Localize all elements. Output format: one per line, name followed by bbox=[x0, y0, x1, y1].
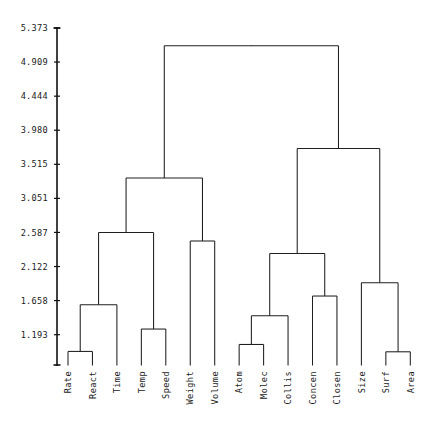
dendrogram-canvas: 1.1931.6582.1222.5873.0513.5153.9804.444… bbox=[0, 0, 431, 436]
leaf-label-concen: Concen bbox=[308, 371, 318, 404]
leaf-label-volume: Volume bbox=[210, 371, 220, 404]
y-axis-tick-label: 3.515 bbox=[21, 159, 48, 169]
dendrogram-links bbox=[68, 45, 410, 351]
leaf-label-molec: Molec bbox=[259, 371, 269, 399]
leaf-label-time: Time bbox=[112, 371, 122, 393]
leaf-label-closen: Closen bbox=[332, 371, 342, 404]
leaf-label-surf: Surf bbox=[381, 371, 391, 393]
y-axis: 1.1931.6582.1222.5873.0513.5153.9804.444… bbox=[21, 23, 61, 366]
y-axis-tick-label: 1.193 bbox=[21, 330, 48, 340]
y-axis-tick-label: 4.909 bbox=[21, 57, 48, 67]
y-axis-tick-label: 1.658 bbox=[21, 296, 48, 306]
y-axis-tick-label: 2.122 bbox=[21, 262, 48, 272]
dendrogram-leaf-stems bbox=[68, 241, 410, 365]
leaf-label-rate: Rate bbox=[63, 371, 73, 393]
y-axis-tick-label: 2.587 bbox=[21, 228, 48, 238]
leaf-labels: RateReactTimeTempSpeedWeightVolumeAtomMo… bbox=[63, 371, 415, 404]
leaf-label-atom: Atom bbox=[234, 371, 244, 393]
leaf-label-size: Size bbox=[357, 371, 367, 393]
leaf-label-weight: Weight bbox=[185, 371, 195, 404]
y-axis-tick-label: 4.444 bbox=[21, 91, 48, 101]
y-axis-tick-label: 3.051 bbox=[21, 193, 48, 203]
y-axis-tick-label: 5.373 bbox=[21, 23, 48, 33]
dendrogram-chart: 1.1931.6582.1222.5873.0513.5153.9804.444… bbox=[0, 0, 431, 436]
y-axis-tick-label: 3.980 bbox=[21, 125, 48, 135]
leaf-label-react: React bbox=[88, 371, 98, 399]
leaf-label-area: Area bbox=[406, 371, 416, 393]
leaf-label-collis: Collis bbox=[283, 371, 293, 404]
leaf-label-speed: Speed bbox=[161, 371, 171, 399]
leaf-label-temp: Temp bbox=[137, 371, 147, 393]
